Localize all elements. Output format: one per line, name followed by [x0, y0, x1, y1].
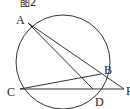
point-label-c: C — [7, 85, 15, 99]
segment-c-b — [20, 74, 101, 89]
point-label-p: P — [126, 84, 130, 98]
geometry-figure: 图2 A B C D P — [0, 0, 130, 109]
point-label-a: A — [16, 13, 25, 27]
figure-title: 图2 — [20, 0, 36, 8]
point-label-b: B — [104, 63, 112, 77]
point-label-d: D — [95, 95, 104, 109]
segment-a-d — [28, 23, 93, 89]
